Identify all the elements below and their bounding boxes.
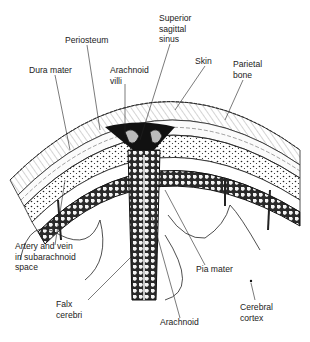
cortex-dot: [250, 280, 252, 282]
label-arachnoid-villi: Arachnoid villi: [110, 65, 149, 86]
label-artery-vein: Artery and vein in subarachnoid space: [15, 241, 76, 273]
label-cerebral-cortex: Cerebral cortex: [240, 302, 273, 323]
label-parietal-bone: Parietal bone: [233, 59, 262, 80]
meninges-diagram: [0, 0, 310, 342]
label-pia-mater: Pia mater: [196, 264, 233, 275]
label-dura-mater: Dura mater: [29, 65, 72, 76]
label-skin: Skin: [195, 56, 212, 67]
label-falx-cerebri: Falx cerebri: [56, 299, 82, 320]
label-periosteum: Periosteum: [65, 35, 108, 46]
label-arachnoid: Arachnoid: [160, 317, 199, 328]
label-superior-sagittal-sinus: Superior sagittal sinus: [159, 13, 191, 45]
